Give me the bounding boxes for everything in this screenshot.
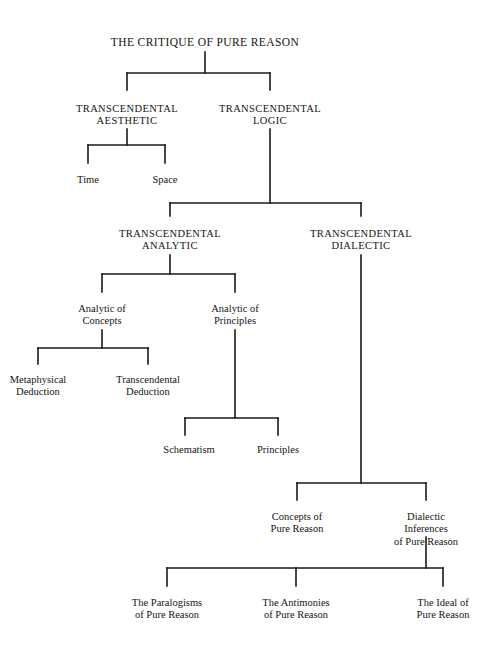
diagram-canvas: THE CRITIQUE OF PURE REASONTRANSCENDENTA… [0,0,500,662]
node-schematism: Schematism [163,444,214,456]
node-aesthetic: TRANSCENDENTAL AESTHETIC [76,103,178,128]
node-logic: TRANSCENDENTAL LOGIC [219,103,321,128]
node-time: Time [77,174,99,186]
node-analytic-concepts: Analytic of Concepts [78,303,126,328]
node-analytic-principles: Analytic of Principles [211,303,259,328]
node-dialectic-inferences: Dialectic Inferences of Pure Reason [389,511,463,548]
node-critique: THE CRITIQUE OF PURE REASON [111,36,299,50]
node-transcendental-deduction: Transcendental Deduction [116,374,180,399]
connector-lines [0,0,500,662]
node-concepts-pure-reason: Concepts of Pure Reason [271,511,324,536]
node-paralogisms: The Paralogisms of Pure Reason [132,597,202,622]
node-principles: Principles [257,444,299,456]
node-dialectic: TRANSCENDENTAL DIALECTIC [310,228,412,253]
node-antinomies: The Antimonies of Pure Reason [262,597,329,622]
node-ideal: The Ideal of Pure Reason [417,597,470,622]
node-analytic: TRANSCENDENTAL ANALYTIC [119,228,221,253]
node-space: Space [152,174,177,186]
node-metaphysical-deduction: Metaphysical Deduction [10,374,67,399]
